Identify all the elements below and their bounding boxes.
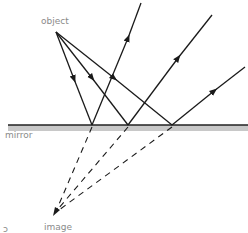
mirror-label: mirror: [5, 131, 33, 140]
incident-rays: [56, 32, 172, 125]
image-arrowhead: [53, 207, 60, 216]
reflected-rays: [92, 3, 245, 125]
virtual-rays: [57, 127, 172, 210]
image-label: image: [44, 223, 72, 232]
reflection-diagram: [0, 0, 248, 233]
corner-mark: ɔ: [3, 225, 8, 233]
object-label: object: [41, 17, 69, 26]
mirror-band: [8, 125, 248, 131]
